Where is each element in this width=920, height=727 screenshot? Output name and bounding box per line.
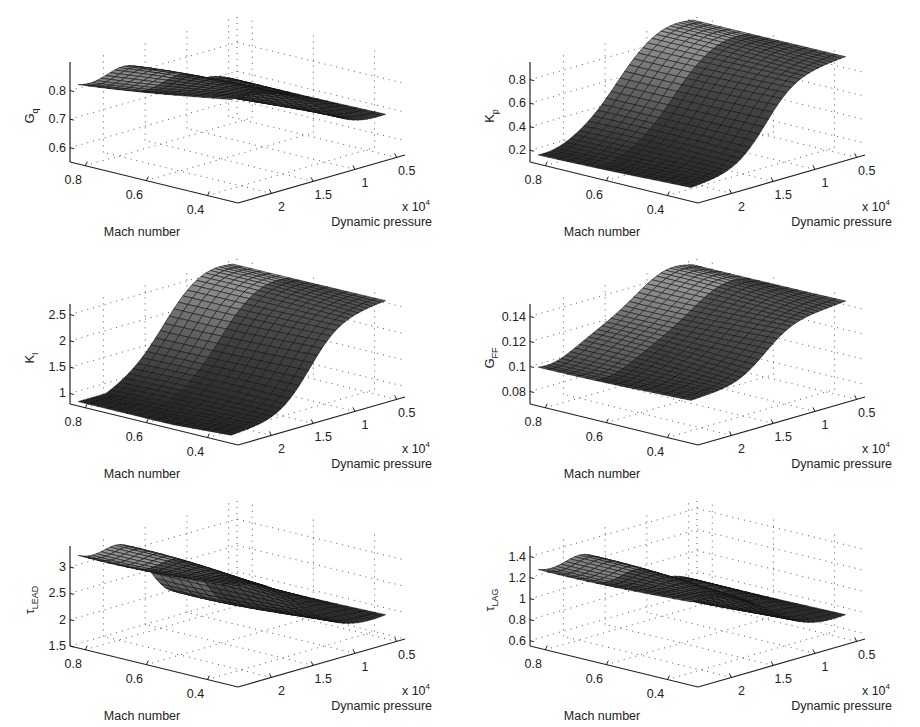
grid-line-q-floor	[229, 116, 397, 157]
q-tick-label: 2	[738, 684, 745, 698]
z-tick-label: 0.6	[509, 634, 526, 648]
multiplier-exponent: 4	[886, 440, 891, 449]
mach-axis-line	[530, 646, 698, 687]
multiplier-exponent: 4	[426, 198, 431, 207]
mach-tick	[146, 661, 148, 665]
q-axis-label: Dynamic pressure	[331, 457, 432, 471]
z-tick-label: 1.5	[49, 360, 66, 374]
z-tick-label: 0.08	[502, 385, 526, 399]
mach-axis-line	[70, 162, 238, 203]
q-tick	[771, 419, 773, 423]
mach-axis-label: Mach number	[564, 467, 640, 481]
multiplier-base: x 10	[862, 442, 886, 456]
q-tick-label: 1	[361, 176, 368, 190]
grid-line-mach-floor	[606, 617, 773, 665]
z-tick-label: 1.5	[49, 639, 66, 653]
q-tick-label: 1	[361, 660, 368, 674]
z-tick-label: 2	[59, 613, 66, 627]
z-tick-label: 0.2	[509, 143, 526, 157]
grid-line-q-floor	[145, 140, 313, 181]
subplot-tau-lag: 0.60.811.21.40.80.60.421.510.5τLAGMach n…	[482, 498, 892, 723]
z-tick-label: 1.4	[509, 550, 526, 564]
q-tick	[813, 165, 815, 169]
mach-tick-label: 0.8	[525, 657, 542, 671]
subplot-kp: 0.20.40.60.80.80.60.421.510.5KpMach numb…	[482, 14, 892, 239]
q-tick	[729, 431, 731, 435]
mach-tick	[207, 434, 209, 438]
q-tick-label: 1.5	[314, 188, 331, 202]
q-tick	[395, 637, 397, 641]
multiplier-base: x 10	[862, 200, 886, 214]
q-tick-label: 2	[278, 200, 285, 214]
z-axis-label: τLAG	[482, 588, 500, 611]
q-axis-label: Dynamic pressure	[331, 699, 432, 713]
z-tick-label: 1	[519, 592, 526, 606]
z-axis-label: GFF	[482, 347, 500, 369]
surface-mesh	[538, 265, 845, 401]
q-tick	[855, 637, 857, 641]
q-tick	[813, 649, 815, 653]
mach-axis-label: Mach number	[564, 709, 640, 723]
mach-axis-line	[530, 404, 698, 445]
mach-axis-label: Mach number	[104, 709, 180, 723]
multiplier-exponent: 4	[426, 440, 431, 449]
mach-tick	[545, 404, 547, 408]
mach-tick	[207, 192, 209, 196]
mach-tick-label: 0.8	[65, 657, 82, 671]
mach-tick-label: 0.4	[647, 687, 664, 701]
grid-line-q-floor	[187, 128, 355, 169]
q-tick-label: 1.5	[314, 672, 331, 686]
z-tick-label: 2	[59, 334, 66, 348]
grid-line-mach-floor	[146, 133, 313, 181]
mach-tick	[606, 177, 608, 181]
q-tick-label: 0.5	[858, 406, 875, 420]
z-axis-label-subscript: LEAD	[30, 585, 40, 609]
z-tick-label: 2.5	[49, 308, 66, 322]
z-tick-label: 1	[59, 386, 66, 400]
grid-line-mach-floor	[85, 602, 252, 650]
q-tick	[311, 661, 313, 665]
surface-mesh	[78, 66, 385, 120]
q-tick	[353, 407, 355, 411]
z-tick-label: 0.6	[509, 96, 526, 110]
mach-tick	[667, 434, 669, 438]
mach-tick-label: 0.8	[525, 173, 542, 187]
q-tick	[855, 395, 857, 399]
z-axis-label-symbol: K	[22, 355, 37, 364]
z-tick-label: 0.7	[49, 112, 66, 126]
q-tick-label: 1.5	[774, 430, 791, 444]
mach-tick	[85, 162, 87, 166]
z-tick-label: 0.1	[509, 360, 526, 374]
mach-tick-label: 0.4	[187, 445, 204, 459]
grid-line-mach-floor	[146, 617, 313, 665]
z-tick-label: 0.8	[509, 73, 526, 87]
z-axis-label-symbol: K	[482, 114, 497, 123]
q-tick	[311, 177, 313, 181]
grid-line-mach-floor	[85, 118, 252, 166]
surface-mesh	[538, 554, 845, 622]
multiplier-base: x 10	[402, 200, 426, 214]
q-axis-multiplier: x 104	[402, 198, 431, 214]
multiplier-base: x 10	[862, 684, 886, 698]
mach-tick-label: 0.8	[525, 415, 542, 429]
z-axis-label-symbol: G	[22, 113, 37, 123]
z-tick-label: 0.8	[49, 84, 66, 98]
q-axis-multiplier: x 104	[862, 682, 891, 698]
multiplier-exponent: 4	[886, 682, 891, 691]
mach-tick-label: 0.6	[126, 430, 143, 444]
z-tick-label: 0.4	[509, 120, 526, 134]
mach-tick-label: 0.4	[647, 203, 664, 217]
z-tick-label: 3	[59, 560, 66, 574]
z-tick-label: 0.8	[509, 613, 526, 627]
mach-tick-label: 0.6	[586, 672, 603, 686]
q-tick	[353, 165, 355, 169]
figure: 0.60.70.80.80.60.421.510.5GqMach numberD…	[0, 0, 920, 727]
q-tick-label: 0.5	[858, 164, 875, 178]
q-tick-label: 0.5	[398, 406, 415, 420]
q-tick	[729, 189, 731, 193]
z-tick-label: 0.12	[502, 335, 526, 349]
q-tick	[395, 395, 397, 399]
z-axis-label: τLEAD	[22, 585, 40, 614]
surface-mesh	[78, 545, 385, 624]
z-axis-label: Gq	[22, 108, 40, 123]
